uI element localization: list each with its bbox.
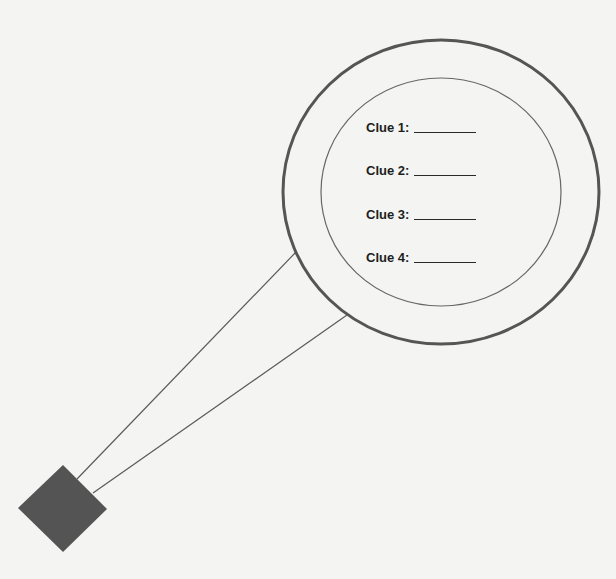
handle-line-upper [77, 252, 296, 479]
handle-grip-diamond [18, 465, 107, 552]
clue-1-blank[interactable] [414, 132, 476, 133]
handle-line-lower [93, 315, 347, 493]
magnifying-glass-organizer: Clue 1: Clue 2: Clue 3: Clue 4: [0, 0, 616, 579]
clue-1-row: Clue 1: [366, 118, 476, 134]
clue-3-label: Clue 3: [366, 208, 409, 221]
lens-outer-ring [283, 40, 599, 344]
clue-4-label: Clue 4: [366, 251, 409, 264]
clue-4-row: Clue 4: [366, 248, 476, 264]
clue-4-blank[interactable] [414, 262, 476, 263]
clue-1-label: Clue 1: [366, 121, 409, 134]
lens-inner-ring [321, 78, 561, 306]
clue-3-row: Clue 3: [366, 205, 476, 221]
clue-3-blank[interactable] [414, 219, 476, 220]
clue-2-row: Clue 2: [366, 161, 476, 177]
magnifying-glass-graphic [0, 0, 616, 579]
clue-2-label: Clue 2: [366, 164, 409, 177]
clue-2-blank[interactable] [414, 175, 476, 176]
